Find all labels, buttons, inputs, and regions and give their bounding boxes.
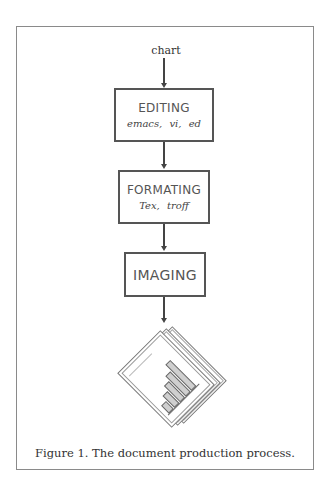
step-title: IMAGING [133,267,197,283]
step-title: EDITING [138,101,190,115]
document-stack-icon [100,325,232,437]
step-title: FORMATING [127,183,201,197]
step-tools: Tex, troff [139,200,189,211]
arrow-editing-to-formating [163,142,165,165]
arrow-imaging-to-output [163,297,165,319]
arrowhead-icon [161,318,167,323]
input-label: chart [0,44,332,57]
arrowhead-icon [161,164,167,169]
step-editing: EDITING emacs, vi, ed [114,88,214,142]
arrow-input-to-editing [163,58,165,84]
arrowhead-icon [161,246,167,251]
step-formating: FORMATING Tex, troff [118,170,210,224]
step-tools: emacs, vi, ed [127,118,201,129]
figure-caption: Figure 1. The document production proces… [16,446,314,460]
step-imaging: IMAGING [124,252,206,297]
arrow-formating-to-imaging [163,224,165,247]
